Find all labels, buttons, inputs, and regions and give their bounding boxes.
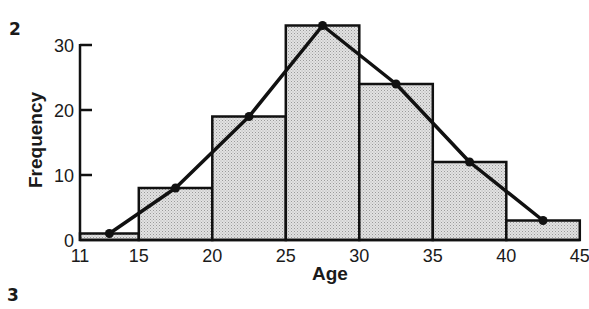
bar-15-20 [139, 188, 213, 240]
histogram-chart: 01020301115202530354045AgeFrequency [0, 0, 589, 309]
x-tick-label: 25 [276, 246, 296, 266]
x-tick-label: 40 [496, 246, 516, 266]
bar-20-25 [212, 117, 285, 241]
polygon-point [539, 216, 548, 225]
polygon-point [171, 184, 180, 193]
x-tick-label: 20 [202, 246, 222, 266]
x-axis-title: Age [312, 263, 348, 284]
polygon-point [318, 21, 327, 30]
bar-30-35 [359, 84, 433, 240]
polygon-point [465, 158, 474, 167]
polygon-point [392, 80, 401, 89]
x-tick-label: 45 [570, 246, 589, 266]
x-tick-label: 30 [349, 246, 369, 266]
x-tick-label: 35 [423, 246, 443, 266]
y-tick-label: 10 [54, 166, 74, 186]
bar-35-40 [433, 162, 507, 240]
y-axis-title: Frequency [25, 92, 46, 189]
y-tick-label: 30 [54, 36, 74, 56]
histogram-bars [80, 26, 580, 241]
y-tick-label: 20 [54, 101, 74, 121]
x-tick-label: 15 [129, 246, 149, 266]
polygon-point [245, 112, 254, 121]
polygon-point [105, 229, 114, 238]
x-tick-label: 11 [71, 246, 90, 266]
